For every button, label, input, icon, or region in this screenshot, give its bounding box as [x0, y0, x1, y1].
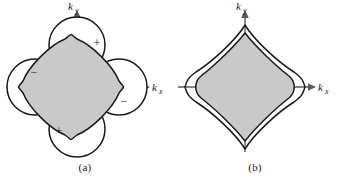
y-axis-label: k y [68, 0, 79, 15]
x-axis-label-k: k [318, 81, 324, 93]
panel-b: k x k y (b) [170, 0, 340, 179]
y-axis-label: k y [236, 0, 247, 15]
x-axis-label-sub: x [324, 87, 329, 96]
bottom-lobe-sign: + [56, 124, 63, 138]
x-axis-arrowhead [308, 83, 316, 91]
panel-a-caption: (a) [0, 161, 170, 173]
brillouin-zone-a [19, 35, 124, 140]
figure-container: + − − + k x k y (a) [0, 0, 340, 179]
panel-a: + − − + k x k y (a) [0, 0, 170, 179]
panel-a-diagram: + − − + k x k y [0, 0, 170, 179]
x-axis-label: k x [318, 81, 329, 96]
panel-b-diagram: k x k y [170, 0, 340, 179]
y-axis-label-sub: y [242, 6, 247, 15]
top-lobe-sign: + [94, 36, 101, 50]
y-axis-label-sub: y [74, 6, 79, 15]
left-lobe-sign: − [31, 65, 38, 79]
panel-b-caption: (b) [170, 161, 340, 173]
y-axis-label-k: k [68, 0, 74, 12]
brillouin-zone-b [196, 33, 295, 141]
y-axis-label-k: k [236, 0, 242, 12]
x-axis-label: k x [152, 81, 163, 96]
x-axis-label-sub: x [158, 87, 163, 96]
right-lobe-sign: − [121, 94, 128, 108]
x-axis-label-k: k [152, 81, 158, 93]
